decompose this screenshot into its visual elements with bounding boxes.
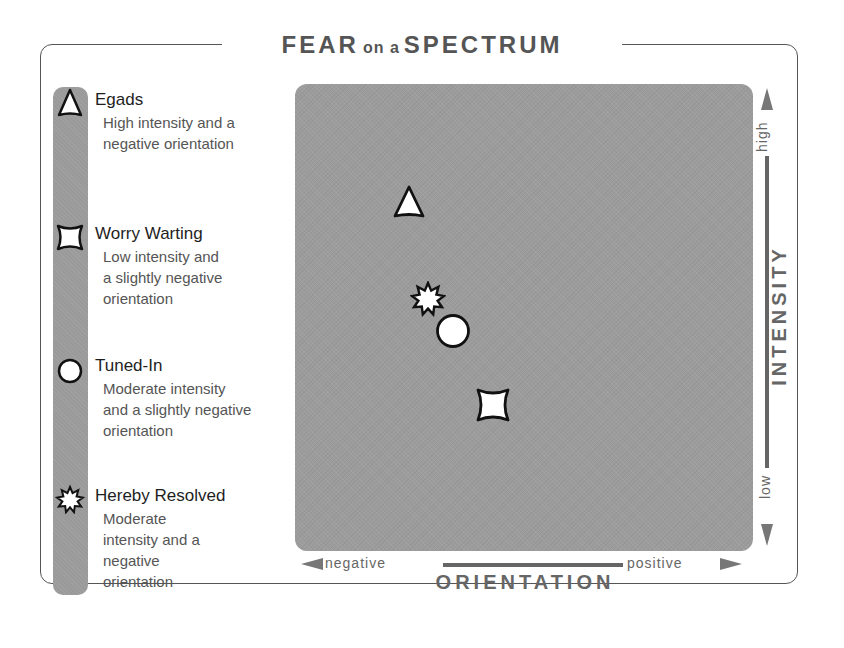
y-axis-max-label: high bbox=[754, 122, 770, 152]
legend-description: Moderate intensity and a slightly negati… bbox=[103, 378, 253, 441]
x-axis-bar bbox=[443, 563, 623, 567]
marker-tuned-in bbox=[435, 313, 471, 349]
legend-description: Low intensity and a slightly negative or… bbox=[103, 246, 223, 309]
arrow-up-icon bbox=[761, 88, 773, 110]
marker-worry-warting bbox=[475, 387, 511, 423]
star-icon bbox=[55, 484, 85, 514]
circle-icon bbox=[55, 354, 85, 384]
legend-strip bbox=[53, 87, 88, 595]
triangle-icon bbox=[55, 88, 85, 118]
y-axis: high low INTENSITY bbox=[752, 84, 802, 551]
legend-description: High intensity and a negative orientatio… bbox=[103, 112, 243, 154]
y-axis-title: INTENSITY bbox=[768, 201, 791, 431]
title-spectrum: SPECTRUM bbox=[404, 31, 563, 58]
concave-square-icon bbox=[55, 222, 85, 252]
title-on-a: on a bbox=[363, 39, 400, 56]
x-axis-max-label: positive bbox=[627, 555, 682, 571]
plot-area bbox=[295, 84, 753, 551]
marker-hereby-resolved bbox=[410, 281, 446, 317]
title-fear: FEAR bbox=[282, 31, 359, 58]
arrow-left-icon bbox=[301, 558, 323, 570]
arrow-right-icon bbox=[720, 558, 742, 570]
legend-name: Hereby Resolved bbox=[95, 486, 225, 506]
legend-name: Tuned-In bbox=[95, 356, 162, 376]
legend-name: Worry Warting bbox=[95, 224, 203, 244]
x-axis-title: ORIENTATION bbox=[395, 571, 655, 594]
legend-name: Egads bbox=[95, 90, 143, 110]
marker-egads bbox=[391, 184, 427, 220]
arrow-down-icon bbox=[761, 524, 773, 546]
legend-description: Moderate intensity and a negative orient… bbox=[103, 508, 213, 592]
x-axis: negative positive ORIENTATION bbox=[295, 555, 725, 605]
x-axis-min-label: negative bbox=[325, 555, 386, 571]
y-axis-min-label: low bbox=[757, 472, 773, 502]
chart-title: FEARon aSPECTRUM bbox=[222, 30, 622, 60]
